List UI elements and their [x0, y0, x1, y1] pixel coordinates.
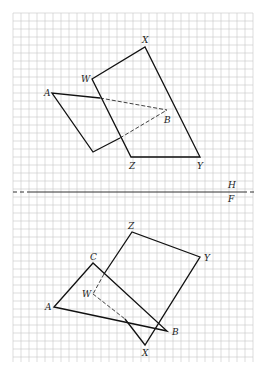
label-c-front: C	[90, 252, 97, 262]
descriptive-geometry-diagram: H F X W A B Z Y Z Y C W A B X	[0, 0, 262, 376]
plane-wxyz-top	[92, 47, 200, 157]
top-view-labels: X W A B Z Y	[43, 35, 204, 171]
label-x-front: X	[141, 348, 149, 358]
label-y-top: Y	[197, 161, 204, 171]
triangle-abc-top-solid	[52, 93, 120, 152]
label-b-front: B	[171, 327, 179, 337]
label-a-front: A	[44, 302, 52, 312]
label-w-top: W	[81, 74, 91, 84]
label-y-front: Y	[204, 253, 211, 263]
label-z-top: Z	[128, 161, 136, 171]
top-view	[52, 47, 200, 157]
label-b-top: B	[163, 115, 171, 125]
label-f: F	[227, 194, 235, 204]
label-z-front: Z	[127, 221, 135, 231]
label-x-top: X	[141, 35, 149, 45]
triangle-abc-front	[54, 263, 167, 331]
fold-line-h-f: H F	[13, 180, 256, 204]
label-w-front: W	[82, 289, 92, 299]
label-a-top: A	[43, 88, 51, 98]
label-h: H	[227, 180, 236, 190]
